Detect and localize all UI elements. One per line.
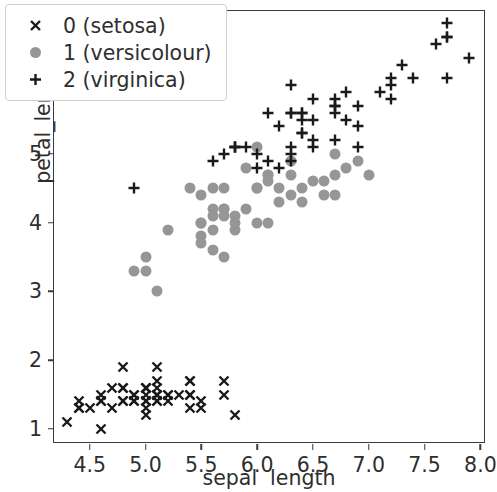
x-tick-mark bbox=[480, 444, 482, 450]
data-point bbox=[250, 160, 265, 175]
data-point bbox=[218, 252, 229, 263]
data-point bbox=[384, 78, 399, 93]
data-point bbox=[384, 91, 399, 106]
x-axis-label: sepal length bbox=[53, 466, 485, 490]
data-point bbox=[218, 183, 229, 194]
data-point bbox=[227, 408, 242, 423]
data-point bbox=[328, 98, 343, 113]
data-point bbox=[151, 286, 162, 297]
y-tick-label: 1 bbox=[29, 417, 42, 441]
data-point bbox=[196, 238, 207, 249]
data-point bbox=[116, 394, 131, 409]
x-tick-mark bbox=[145, 444, 147, 450]
y-tick-label: 2 bbox=[29, 348, 42, 372]
data-point bbox=[138, 394, 153, 409]
data-point bbox=[305, 133, 320, 148]
data-point bbox=[239, 140, 254, 155]
x-tick-mark bbox=[256, 444, 258, 450]
data-point bbox=[196, 217, 207, 228]
data-point bbox=[350, 140, 365, 155]
data-point bbox=[339, 85, 354, 100]
data-point bbox=[218, 210, 229, 221]
legend-box: 0 (setosa)1 (versicolour)2 (virginica) bbox=[5, 4, 227, 101]
x-tick-mark bbox=[89, 444, 91, 450]
data-point bbox=[328, 133, 343, 148]
x-tick-mark bbox=[368, 444, 370, 450]
data-point bbox=[127, 181, 142, 196]
data-point bbox=[406, 71, 421, 86]
data-point bbox=[307, 176, 318, 187]
data-point bbox=[352, 155, 363, 166]
data-point bbox=[296, 183, 307, 194]
data-point bbox=[207, 183, 218, 194]
data-point bbox=[319, 190, 330, 201]
cross-marker-icon bbox=[15, 18, 55, 33]
x-tick-mark bbox=[201, 444, 203, 450]
data-point bbox=[439, 30, 454, 45]
y-tick-mark bbox=[48, 428, 54, 430]
data-point bbox=[216, 373, 231, 388]
data-point bbox=[285, 190, 296, 201]
data-point bbox=[93, 394, 108, 409]
data-point bbox=[185, 183, 196, 194]
data-point bbox=[71, 401, 86, 416]
legend-label: 1 (versicolour) bbox=[63, 41, 212, 65]
data-point bbox=[350, 98, 365, 113]
data-point bbox=[274, 197, 285, 208]
legend-item: 0 (setosa) bbox=[15, 12, 212, 39]
plus-marker-icon bbox=[15, 72, 55, 87]
data-point bbox=[162, 224, 173, 235]
circle-marker-icon bbox=[15, 47, 55, 58]
data-point bbox=[207, 245, 218, 256]
data-point bbox=[263, 217, 274, 228]
data-point bbox=[283, 78, 298, 93]
data-point bbox=[129, 265, 140, 276]
data-point bbox=[216, 387, 231, 402]
data-point bbox=[294, 112, 309, 127]
data-point bbox=[60, 415, 75, 430]
data-point bbox=[296, 197, 307, 208]
x-tick-mark bbox=[312, 444, 314, 450]
data-point bbox=[319, 176, 330, 187]
legend-item: 2 (virginica) bbox=[15, 66, 212, 93]
data-point bbox=[93, 421, 108, 436]
data-point bbox=[330, 169, 341, 180]
data-point bbox=[241, 203, 252, 214]
data-point bbox=[330, 148, 341, 159]
data-point bbox=[252, 183, 263, 194]
data-point bbox=[283, 146, 298, 161]
data-point bbox=[439, 16, 454, 31]
data-point bbox=[149, 360, 164, 375]
data-point bbox=[330, 190, 341, 201]
data-point bbox=[252, 217, 263, 228]
data-point bbox=[172, 387, 187, 402]
data-point bbox=[350, 119, 365, 134]
x-tick-mark bbox=[424, 444, 426, 450]
data-point bbox=[439, 71, 454, 86]
data-point bbox=[272, 119, 287, 134]
data-point bbox=[341, 162, 352, 173]
data-point bbox=[140, 252, 151, 263]
data-point bbox=[207, 224, 218, 235]
data-point bbox=[116, 360, 131, 375]
data-point bbox=[140, 265, 151, 276]
data-point bbox=[462, 50, 477, 65]
data-point bbox=[196, 190, 207, 201]
data-point bbox=[194, 401, 209, 416]
legend-item: 1 (versicolour) bbox=[15, 39, 212, 66]
data-point bbox=[274, 183, 285, 194]
y-tick-mark bbox=[48, 359, 54, 361]
data-point bbox=[305, 91, 320, 106]
legend-label: 2 (virginica) bbox=[63, 68, 186, 92]
data-point bbox=[363, 169, 374, 180]
data-point bbox=[207, 203, 218, 214]
legend-label: 0 (setosa) bbox=[63, 14, 166, 38]
data-point bbox=[263, 176, 274, 187]
data-point bbox=[205, 153, 220, 168]
data-point bbox=[229, 217, 240, 228]
